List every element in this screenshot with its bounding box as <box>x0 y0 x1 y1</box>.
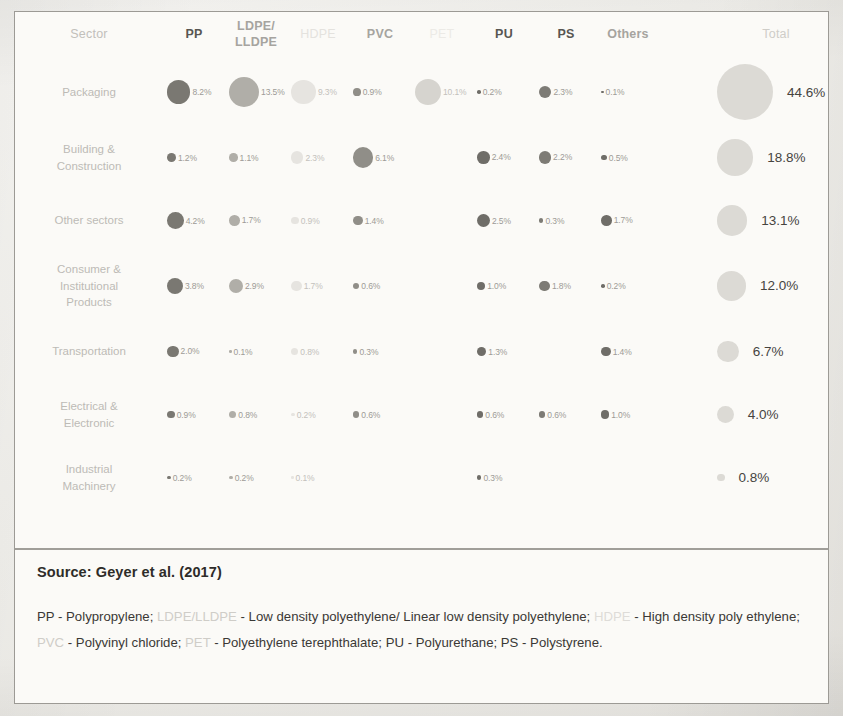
bubble-value-label: 10.1% <box>443 87 467 97</box>
bubble-group: 2.4% <box>473 151 535 164</box>
bubble-group: 0.1% <box>287 473 349 483</box>
bubble-marker <box>291 476 294 479</box>
cell-spacer <box>659 446 701 509</box>
cell-pp: 0.2% <box>163 446 225 509</box>
bubble-value-label: 2.0% <box>181 346 200 356</box>
total-group: 12.0% <box>701 271 843 300</box>
cell-hdpe: 0.8% <box>287 320 349 383</box>
bubble-value-label: 1.0% <box>487 281 506 291</box>
column-header-total: Total <box>701 12 843 58</box>
bubble-value-label: 1.0% <box>611 410 630 420</box>
matrix-row: Transportation2.0%0.1%0.8%0.3%1.3%1.4%6.… <box>15 320 843 383</box>
cell-ps: 2.2% <box>535 126 597 189</box>
bubble-group: 1.0% <box>473 281 535 291</box>
cell-pvc: 0.3% <box>349 320 411 383</box>
bubble-marker <box>167 346 179 358</box>
bubble-group: 6.1% <box>349 147 411 167</box>
bubble-value-label: 6.1% <box>375 153 394 163</box>
cell-ldpe: 0.2% <box>225 446 287 509</box>
cell-others: 0.2% <box>597 252 659 320</box>
legend-ldpe-term: - Low density polyethylene/ Linear low d… <box>237 609 590 624</box>
bubble-marker <box>167 80 190 103</box>
total-value-label: 44.6% <box>787 85 825 100</box>
bubble-value-label: 0.8% <box>238 410 257 420</box>
figure-frame: Sector PPLDPE/LLDPEHDPEPVCPETPUPSOthers … <box>14 11 829 704</box>
cell-hdpe: 9.3% <box>287 58 349 126</box>
cell-total: 13.1% <box>701 189 843 252</box>
bubble-value-label: 3.8% <box>185 281 204 291</box>
legend-hdpe-term: - High density poly ethylene; <box>631 609 800 624</box>
bubble-marker <box>167 278 183 294</box>
cell-spacer <box>659 58 701 126</box>
bubble-value-label: 0.5% <box>609 153 628 163</box>
bubble-value-label: 4.2% <box>186 216 205 226</box>
cell-pu: 1.3% <box>473 320 535 383</box>
bubble-value-label: 1.8% <box>552 281 571 291</box>
bubble-value-label: 1.3% <box>488 347 507 357</box>
bubble-value-label: 0.3% <box>545 216 564 226</box>
bubble-group: 0.6% <box>349 281 411 291</box>
cell-pvc: 0.6% <box>349 383 411 446</box>
bubble-group: 1.0% <box>597 410 659 420</box>
bubble-marker <box>477 475 481 479</box>
bubble-marker <box>353 216 363 226</box>
cell-others: 0.1% <box>597 58 659 126</box>
bubble-value-label: 0.2% <box>297 410 316 420</box>
bubble-marker <box>229 215 240 226</box>
bubble-value-label: 13.5% <box>261 87 285 97</box>
bubble-marker <box>539 218 543 222</box>
cell-others: 1.4% <box>597 320 659 383</box>
total-value-label: 12.0% <box>760 278 798 293</box>
bubble-marker <box>477 282 485 290</box>
matrix-row: Packaging8.2%13.5%9.3%0.9%10.1%0.2%2.3%0… <box>15 58 843 126</box>
bubble-group: 0.6% <box>349 410 411 420</box>
matrix-row: Electrical &Electronic0.9%0.8%0.2%0.6%0.… <box>15 383 843 446</box>
row-label-sector: Electrical &Electronic <box>15 383 163 446</box>
source-citation: Source: Geyer et al. (2017) <box>37 564 222 580</box>
cell-ldpe: 1.1% <box>225 126 287 189</box>
bubble-marker <box>353 147 373 167</box>
bubble-value-label: 1.2% <box>178 153 197 163</box>
total-group: 6.7% <box>701 341 843 363</box>
cell-ldpe: 2.9% <box>225 252 287 320</box>
cell-hdpe: 2.3% <box>287 126 349 189</box>
column-header-pvc: PVC <box>349 12 411 58</box>
bubble-value-label: 0.6% <box>361 281 380 291</box>
bubble-value-label: 8.2% <box>192 87 211 97</box>
bubble-value-label: 2.4% <box>492 152 511 162</box>
legend-pp: PP - Polypropylene; <box>37 609 153 624</box>
bubble-group: 0.6% <box>473 410 535 420</box>
bubble-value-label: 1.7% <box>304 281 323 291</box>
total-bubble-marker <box>717 474 725 482</box>
cell-others: 0.5% <box>597 126 659 189</box>
cell-spacer <box>659 126 701 189</box>
cell-pvc: 1.4% <box>349 189 411 252</box>
bubble-marker <box>601 155 607 161</box>
cell-pp: 3.8% <box>163 252 225 320</box>
bubble-group: 1.7% <box>597 215 659 226</box>
cell-pu: 1.0% <box>473 252 535 320</box>
cell-pet: 10.1% <box>411 58 473 126</box>
cell-pet <box>411 189 473 252</box>
bubble-marker <box>167 212 184 229</box>
bubble-group: 0.1% <box>597 87 659 97</box>
bubble-marker <box>229 153 238 162</box>
bubble-marker <box>601 410 609 418</box>
column-spacer <box>659 12 701 58</box>
bubble-value-label: 2.2% <box>553 152 572 162</box>
bubble-group: 2.9% <box>225 279 287 293</box>
cell-total: 18.8% <box>701 126 843 189</box>
cell-pp: 2.0% <box>163 320 225 383</box>
bubble-value-label: 0.9% <box>177 410 196 420</box>
row-label-sector: IndustrialMachinery <box>15 446 163 509</box>
total-value-label: 6.7% <box>753 344 784 359</box>
cell-spacer <box>659 252 701 320</box>
cell-hdpe: 0.9% <box>287 189 349 252</box>
cell-pp: 4.2% <box>163 189 225 252</box>
cell-ldpe: 13.5% <box>225 58 287 126</box>
bubble-value-label: 1.4% <box>613 347 632 357</box>
cell-total: 0.8% <box>701 446 843 509</box>
bubble-group: 2.2% <box>535 151 597 163</box>
bubble-marker <box>601 284 605 288</box>
bubble-group: 0.2% <box>225 473 287 483</box>
